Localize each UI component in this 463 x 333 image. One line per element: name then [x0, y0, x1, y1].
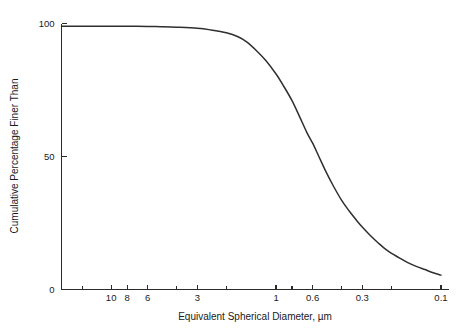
x-tick-label: 3 — [195, 292, 200, 303]
y-tick-label: 50 — [44, 151, 55, 162]
y-axis-tick-labels: 050100 — [39, 18, 55, 295]
x-axis-tick-labels: 1086310.60.30.1 — [106, 292, 448, 303]
x-tick-label: 0.3 — [356, 292, 369, 303]
x-axis-ticks — [62, 285, 441, 290]
x-axis-title: Equivalent Spherical Diameter, µm — [178, 311, 332, 322]
y-axis-title: Cumulative Percentage Finer Than — [9, 79, 20, 234]
x-tick-label: 1 — [273, 292, 278, 303]
x-tick-label: 10 — [106, 292, 117, 303]
y-tick-label: 100 — [39, 18, 55, 29]
x-tick-label: 0.1 — [434, 292, 447, 303]
x-tick-label: 0.6 — [306, 292, 319, 303]
chart-figure: 1086310.60.30.1 050100 Equivalent Spheri… — [0, 0, 463, 333]
chart-canvas: 1086310.60.30.1 050100 Equivalent Spheri… — [0, 0, 463, 333]
y-axis-title-group: Cumulative Percentage Finer Than — [9, 79, 20, 234]
x-tick-label: 8 — [124, 292, 129, 303]
y-tick-label: 0 — [49, 284, 54, 295]
x-tick-label: 6 — [145, 292, 150, 303]
data-series-line — [62, 26, 441, 275]
y-axis-ticks — [62, 24, 67, 290]
